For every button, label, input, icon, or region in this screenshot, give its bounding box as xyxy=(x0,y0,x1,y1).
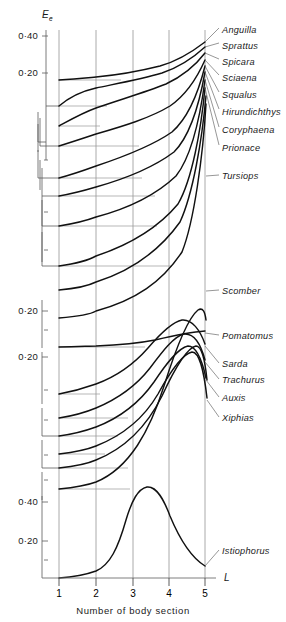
series-label-scomber: Scomber xyxy=(222,286,261,296)
y-tick-labels: 0·40 0·20 0·20 0·20 0·40 0·20 xyxy=(18,30,38,546)
x-tick-label: 4 xyxy=(166,588,172,599)
y-tick-label: 0·20 xyxy=(18,535,38,546)
x-tick-label: 2 xyxy=(93,588,99,599)
species-curve-chart: 0·40 0·20 0·20 0·20 0·40 0·20 E e xyxy=(0,0,286,622)
series-label-pomatomus: Pomatomus xyxy=(222,331,273,341)
series-label-istiophorus: Istiophorus xyxy=(222,546,270,556)
series-label-sprattus: Sprattus xyxy=(222,41,258,51)
y-tick-label: 0·40 xyxy=(18,496,38,507)
series-label-sciaena: Sciaena xyxy=(222,73,257,83)
curve-istiophorus xyxy=(59,487,205,578)
series-label-trachurus: Trachurus xyxy=(222,375,265,385)
curve-squalus xyxy=(59,66,205,178)
left-axis-brackets xyxy=(38,30,59,578)
y-tick-label: 0·40 xyxy=(18,30,38,41)
curve-auxis xyxy=(59,346,206,436)
curve-hirundichthys xyxy=(59,72,205,196)
y-axis-title-subscript: e xyxy=(49,15,53,22)
x-axis-caption: Number of body section xyxy=(76,605,190,616)
y-tick-label: 0·20 xyxy=(18,351,38,362)
x-tick-label: 3 xyxy=(130,588,136,599)
series-label-squalus: Squalus xyxy=(222,90,257,100)
series-label-tursiops: Tursiops xyxy=(222,171,259,181)
series-label-spicara: Spicara xyxy=(222,57,255,67)
series-label-prionace: Prionace xyxy=(222,143,260,153)
y-tick-marks xyxy=(42,36,48,560)
series-label-anguilla: Anguilla xyxy=(221,25,257,35)
x-tick-label: 1 xyxy=(56,588,62,599)
series-label-coryphaena: Coryphaena xyxy=(222,125,275,135)
series-label-xiphias: Xiphias xyxy=(221,413,254,423)
series-label-auxis: Auxis xyxy=(221,393,246,403)
x-axis-title: L xyxy=(224,572,230,583)
series-label-sarda: Sarda xyxy=(222,359,248,369)
curve-sciaena xyxy=(59,60,205,146)
series-labels: Anguilla Sprattus Spicara Sciaena Squalu… xyxy=(221,25,281,556)
series-label-hirundichthys: Hirundichthys xyxy=(222,107,281,117)
x-tick-label: 5 xyxy=(202,588,208,599)
y-axis-title-text: E xyxy=(42,9,49,20)
y-tick-label: 0·20 xyxy=(18,305,38,316)
gridlines xyxy=(59,30,205,578)
curve-lower-extra xyxy=(59,309,206,489)
label-leaders xyxy=(205,28,219,566)
y-axis-title: E e xyxy=(42,9,53,22)
x-axis: 1 2 3 4 5 L xyxy=(42,572,230,599)
y-tick-label: 0·20 xyxy=(18,67,38,78)
figure-root: 0·40 0·20 0·20 0·20 0·40 0·20 E e xyxy=(0,0,286,622)
